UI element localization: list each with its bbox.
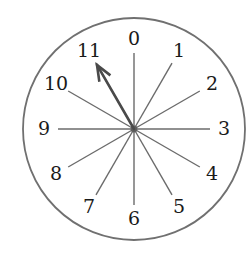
tick-label-10: 10 <box>44 72 68 94</box>
tick-label-7: 7 <box>83 195 95 217</box>
tick-label-5: 5 <box>173 195 185 217</box>
tick-label-1: 1 <box>173 39 185 61</box>
tick-label-11: 11 <box>77 39 101 61</box>
tick-label-9: 9 <box>38 117 50 139</box>
clock-diagram: 01234567891011 <box>0 0 252 255</box>
tick-label-0: 0 <box>128 27 140 49</box>
tick-label-4: 4 <box>206 162 218 184</box>
tick-label-3: 3 <box>218 117 230 139</box>
tick-label-8: 8 <box>50 162 62 184</box>
tick-label-2: 2 <box>206 72 218 94</box>
tick-label-6: 6 <box>128 207 140 229</box>
clock-figure: 01234567891011 <box>0 0 252 255</box>
